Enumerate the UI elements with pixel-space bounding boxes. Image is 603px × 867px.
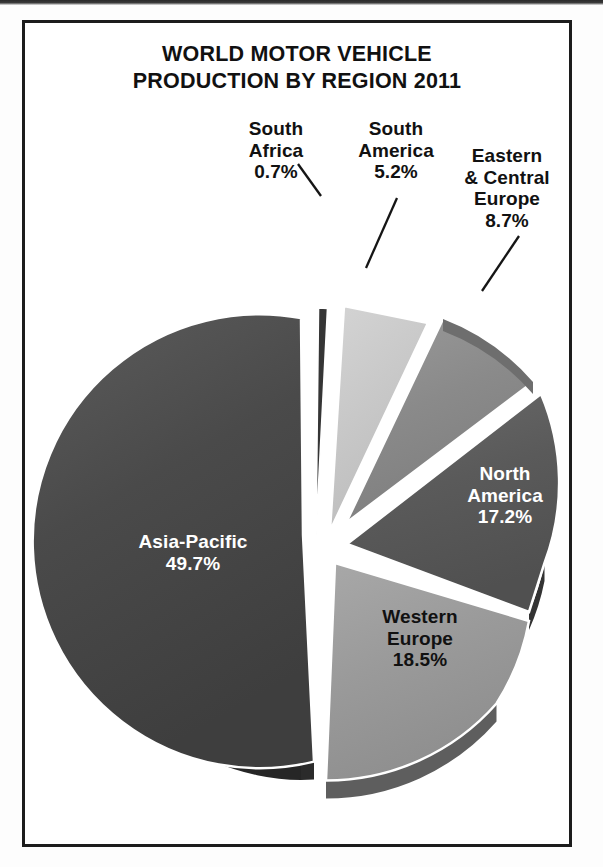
slice-eastern-central-europe-depth [443, 319, 533, 394]
page-title: WORLD MOTOR VEHICLE PRODUCTION BY REGION… [25, 41, 569, 95]
slice-depth-asia-pacific-edge [301, 762, 314, 780]
chart-frame: WORLD MOTOR VEHICLE PRODUCTION BY REGION… [22, 20, 572, 847]
slice-south-africa[interactable] [316, 308, 328, 535]
leader-line-eastern-europe [482, 236, 519, 291]
slice-south-america[interactable] [330, 306, 428, 531]
scan-artifact-band [0, 0, 603, 5]
slice-label-asia-pacific: Asia-Pacific 49.7% [103, 531, 283, 574]
slice-label-north-america: North America 17.2% [445, 463, 565, 528]
slice-depth-north-america [529, 563, 545, 630]
slice-label-western-europe: Western Europe 18.5% [355, 606, 485, 671]
slice-western-europe[interactable] [326, 563, 529, 781]
slice-label-eastern-central-europe: Eastern & Central Europe 8.7% [439, 145, 575, 232]
slice-label-south-africa: South Africa 0.7% [221, 118, 331, 183]
leader-line-south-america [366, 198, 397, 268]
slice-depth-western-europe [326, 704, 497, 799]
